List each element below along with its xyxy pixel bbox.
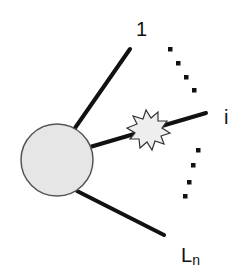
starburst-icon <box>127 110 170 150</box>
label-Ln: Ln <box>181 244 200 268</box>
leg-n-line <box>77 191 164 235</box>
leg-1-line <box>75 49 130 128</box>
label-i: i <box>224 106 228 128</box>
ellipsis-upper <box>168 47 197 93</box>
ellipsis-lower <box>183 148 201 199</box>
label-Ln-main: L <box>181 244 192 266</box>
label-Ln-sub: n <box>192 252 200 268</box>
label-1: 1 <box>136 18 147 40</box>
interaction-blob <box>21 124 93 196</box>
vertex-diagram: 1 i Ln <box>0 0 241 280</box>
